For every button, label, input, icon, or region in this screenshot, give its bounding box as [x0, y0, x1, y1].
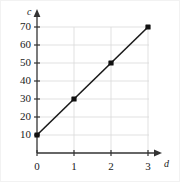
x-tick-label-3: 3: [141, 161, 155, 172]
arrow-up-icon: [34, 9, 41, 17]
y-tick-label-20: 20: [9, 111, 31, 122]
x-tick-label-1: 1: [67, 161, 81, 172]
grid-vertical: [74, 27, 148, 153]
data-point-1-30: [71, 96, 76, 101]
y-tick-label-10: 10: [9, 129, 31, 140]
y-tick-label-40: 40: [9, 75, 31, 86]
y-tick-label-70: 70: [9, 21, 31, 32]
x-tick-label-0: 0: [30, 161, 44, 172]
x-tick-label-2: 2: [104, 161, 118, 172]
y-axis-label: c: [27, 7, 31, 17]
graph-figure: 70 60 50 40 30 20 10 0 1 2 3 c d: [0, 0, 180, 182]
y-tick-label-50: 50: [9, 57, 31, 68]
x-axis: [37, 150, 162, 157]
x-axis-label: d: [164, 159, 169, 169]
data-point-0-10: [34, 132, 39, 137]
data-point-3-70: [145, 24, 150, 29]
y-tick-label-30: 30: [9, 93, 31, 104]
data-point-2-50: [108, 60, 113, 65]
arrow-right-icon: [154, 150, 162, 157]
y-tick-label-60: 60: [9, 39, 31, 50]
